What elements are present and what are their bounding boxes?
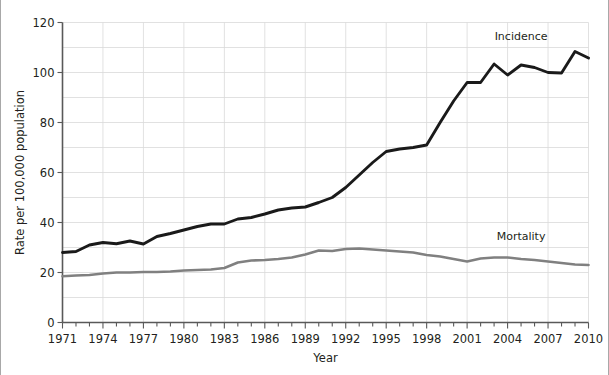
x-axis-tick-label: 1989: [291, 332, 320, 346]
x-axis-tick-label: 1971: [48, 332, 77, 346]
x-axis-tick-label: 1980: [169, 332, 198, 346]
x-axis-tick-label: 1995: [372, 332, 401, 346]
y-axis-tick-label: 40: [40, 216, 55, 230]
line-chart: 0204060801001201971197419771980198319861…: [0, 0, 609, 375]
x-axis-tick-label: 1992: [331, 332, 360, 346]
y-axis-tick-label: 80: [40, 116, 55, 130]
series-label-mortality: Mortality: [497, 230, 546, 243]
x-axis-title: Year: [312, 351, 338, 365]
x-axis-tick-label: 2010: [574, 332, 603, 346]
x-axis-tick-label: 2001: [452, 332, 481, 346]
series-line-mortality: [63, 249, 589, 277]
y-axis-tick-label: 120: [33, 16, 55, 30]
y-axis-tick-label: 0: [47, 316, 54, 330]
chart-canvas: 0204060801001201971197419771980198319861…: [0, 0, 609, 375]
x-axis-tick-label: 1998: [412, 332, 441, 346]
y-axis-tick-label: 20: [40, 266, 55, 280]
x-axis-tick-label: 1983: [210, 332, 239, 346]
x-axis-tick-label: 2007: [533, 332, 562, 346]
series-label-incidence: Incidence: [495, 30, 548, 43]
y-axis-tick-label: 60: [40, 166, 55, 180]
x-axis-tick-label: 2004: [493, 332, 522, 346]
x-axis-tick-label: 1977: [129, 332, 158, 346]
y-axis-tick-label: 100: [33, 66, 55, 80]
x-axis-tick-label: 1974: [88, 332, 117, 346]
y-axis-title: Rate per 100,000 population: [13, 90, 27, 255]
x-axis-tick-label: 1986: [250, 332, 279, 346]
